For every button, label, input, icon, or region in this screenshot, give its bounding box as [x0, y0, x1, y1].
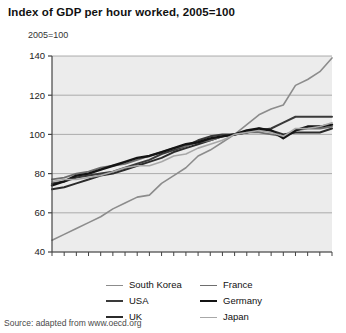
x-tick-label: 00 [168, 258, 179, 260]
legend-label: France [223, 277, 253, 293]
y-tick-label: 80 [34, 168, 45, 179]
line-chart: 406080100120140 19909500051013 [0, 45, 346, 260]
legend-swatch [200, 317, 217, 318]
y-tick-label: 60 [34, 207, 45, 218]
x-tick-label: 1990 [41, 258, 62, 260]
legend-item[interactable]: USA [106, 293, 182, 309]
legend-swatch [106, 300, 123, 302]
chart-plot-area: 406080100120140 19909500051013 [0, 45, 346, 260]
legend-label: South Korea [129, 277, 182, 293]
legend-label: Germany [223, 293, 262, 309]
legend-label: Japan [223, 309, 249, 325]
x-tick-label: 95 [108, 258, 119, 260]
y-tick-label: 40 [34, 246, 45, 257]
source-note: Source: adapted from www.oecd.org [4, 318, 142, 328]
x-tick-label: 13 [327, 258, 338, 260]
x-tick-label: 10 [290, 258, 301, 260]
plot-background [52, 56, 332, 252]
x-axis-labels: 19909500051013 [41, 258, 337, 260]
legend-swatch [200, 300, 217, 302]
legend-column-right: FranceGermanyJapan [200, 277, 262, 325]
x-axis-ticks [52, 252, 332, 256]
y-tick-label: 140 [29, 50, 45, 61]
legend-swatch [200, 285, 217, 286]
y-tick-label: 100 [29, 129, 45, 140]
legend-item[interactable]: France [200, 277, 262, 293]
y-axis-unit-label: 2005=100 [28, 30, 68, 40]
legend-label: USA [129, 293, 149, 309]
x-tick-label: 05 [229, 258, 240, 260]
legend-item[interactable]: Japan [200, 309, 262, 325]
legend-swatch [106, 285, 123, 286]
legend-item[interactable]: South Korea [106, 277, 182, 293]
y-tick-label: 120 [29, 90, 45, 101]
legend-item[interactable]: Germany [200, 293, 262, 309]
y-axis-labels: 406080100120140 [29, 50, 45, 257]
page-title: Index of GDP per hour worked, 2005=100 [8, 6, 235, 18]
